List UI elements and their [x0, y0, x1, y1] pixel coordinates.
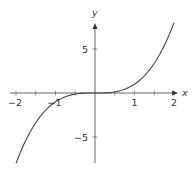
- x-tick-label: −2: [8, 97, 22, 108]
- y-tick-label: −5: [74, 132, 88, 143]
- x-tick-label: 1: [131, 97, 137, 108]
- function-plot: −2−1125−5 x y: [0, 0, 196, 173]
- x-tick-label: 2: [171, 97, 177, 108]
- y-axis-label: y: [91, 7, 98, 18]
- x-tick-label: −1: [47, 97, 61, 108]
- y-tick-label: 5: [82, 44, 88, 55]
- y-axis-arrow-icon: [93, 23, 98, 29]
- x-axis-label: x: [181, 87, 188, 98]
- x-axis-arrow-icon: [172, 91, 178, 96]
